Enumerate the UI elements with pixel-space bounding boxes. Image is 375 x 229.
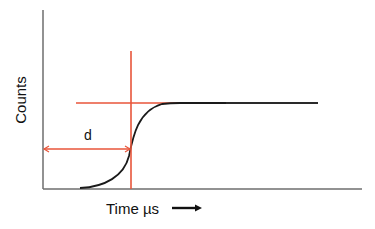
d-arrow <box>44 146 130 152</box>
y-axis-label: Counts <box>12 76 29 124</box>
x-axis-label: Time µs <box>106 200 159 217</box>
response-curve <box>80 103 226 188</box>
right-arrow-icon <box>172 205 202 212</box>
diagram-canvas: d Counts Time µs <box>0 0 375 229</box>
d-label: d <box>84 127 92 143</box>
